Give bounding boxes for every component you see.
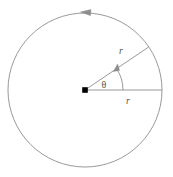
radius-diagonal-label: r [119, 45, 123, 56]
rotation-direction-arrow-icon [81, 10, 92, 16]
angle-arc-arrowhead-icon [113, 64, 119, 72]
angle-arc [117, 69, 124, 90]
center-point-dot [82, 87, 88, 93]
angle-label: θ [102, 79, 107, 90]
figure-canvas: r r θ [0, 0, 173, 177]
radius-horizontal-label: r [126, 95, 130, 106]
circle-diagram-svg: r r θ [0, 0, 173, 177]
